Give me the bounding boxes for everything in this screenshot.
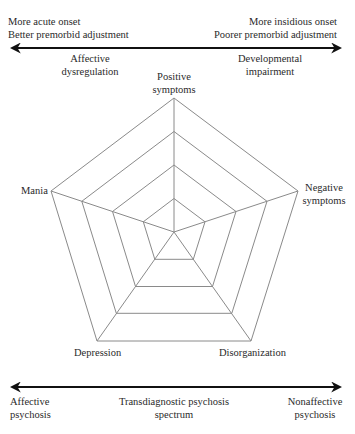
nonaffective-psychosis-label: Nonaffective psychosis bbox=[280, 395, 350, 421]
axis-label-negative-line1: Negative bbox=[294, 181, 354, 194]
axis-label-positive-line1: Positive bbox=[134, 70, 214, 83]
nonaffective-psychosis-line1: Nonaffective bbox=[280, 395, 350, 408]
spoke-negative bbox=[174, 191, 298, 232]
transdiagnostic-spectrum-label: Transdiagnostic psychosis spectrum bbox=[104, 395, 244, 421]
axis-label-negative-symptoms: Negative symptoms bbox=[294, 181, 354, 207]
affective-psychosis-line1: Affective bbox=[10, 395, 51, 408]
axis-label-depression: Depression bbox=[74, 346, 121, 359]
transdiagnostic-line1: Transdiagnostic psychosis bbox=[104, 395, 244, 408]
axis-label-positive-symptoms: Positive symptoms bbox=[134, 70, 214, 96]
radar-diagram bbox=[0, 0, 355, 434]
axis-label-positive-line2: symptoms bbox=[134, 83, 214, 96]
axis-label-mania: Mania bbox=[21, 184, 48, 197]
transdiagnostic-line2: spectrum bbox=[104, 408, 244, 421]
nonaffective-psychosis-line2: psychosis bbox=[280, 408, 350, 421]
affective-psychosis-label: Affective psychosis bbox=[10, 395, 51, 421]
axis-label-disorganization: Disorganization bbox=[219, 346, 286, 359]
affective-psychosis-line2: psychosis bbox=[10, 408, 51, 421]
radar-grid bbox=[51, 98, 298, 341]
axis-label-negative-line2: symptoms bbox=[294, 194, 354, 207]
spoke-mania bbox=[51, 191, 174, 232]
